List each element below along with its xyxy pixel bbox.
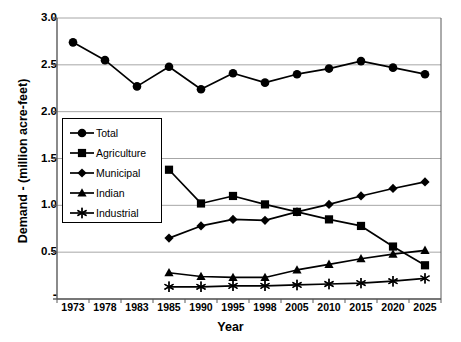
data-point-municipal: [356, 191, 365, 200]
data-point-total: [197, 85, 206, 94]
legend-item-municipal[interactable]: Municipal: [63, 163, 161, 183]
data-point-total: [69, 38, 78, 47]
data-point-municipal: [260, 216, 269, 225]
data-point-agriculture: [261, 200, 269, 208]
data-point-agriculture: [421, 261, 429, 269]
circle-marker-icon: [69, 125, 95, 141]
data-point-total: [261, 78, 270, 87]
data-point-indian: [420, 245, 429, 253]
data-point-municipal: [196, 221, 205, 230]
data-point-agriculture: [357, 222, 365, 230]
legend-label: Agriculture: [96, 147, 146, 159]
square-marker-icon: [69, 145, 95, 161]
data-point-municipal: [388, 184, 397, 193]
series-line-agriculture: [169, 170, 425, 266]
data-point-total: [101, 56, 110, 65]
legend-item-industrial[interactable]: Industrial: [63, 203, 161, 223]
data-point-total: [293, 70, 302, 79]
data-point-total: [165, 62, 174, 71]
legend-label: Industrial: [96, 207, 139, 219]
diamond-marker-icon: [69, 165, 95, 181]
legend-label: Indian: [96, 187, 125, 199]
data-point-municipal: [228, 215, 237, 224]
data-point-indian: [164, 268, 173, 276]
data-point-agriculture: [197, 199, 205, 207]
data-point-municipal: [420, 177, 429, 186]
data-point-agriculture: [165, 166, 173, 174]
legend-item-agriculture[interactable]: Agriculture: [63, 143, 161, 163]
data-point-total: [229, 69, 238, 78]
data-point-total: [133, 82, 142, 91]
data-point-agriculture: [229, 192, 237, 200]
legend-label: Municipal: [96, 167, 140, 179]
chart-legend: TotalAgricultureMunicipalIndianIndustria…: [62, 118, 162, 223]
legend-item-total[interactable]: Total: [63, 123, 161, 143]
legend-item-indian[interactable]: Indian: [63, 183, 161, 203]
asterisk-marker-icon: [69, 205, 95, 221]
data-point-agriculture: [325, 215, 333, 223]
data-point-municipal: [164, 234, 173, 243]
data-point-total: [357, 57, 366, 66]
data-point-total: [389, 63, 398, 72]
series-line-total: [73, 42, 425, 89]
legend-label: Total: [96, 127, 118, 139]
demand-line-chart: Demand - (million acre-feet) Year -0.51.…: [0, 0, 461, 342]
data-point-total: [325, 64, 334, 73]
data-point-total: [421, 70, 430, 79]
triangle-marker-icon: [69, 185, 95, 201]
data-point-municipal: [324, 200, 333, 209]
